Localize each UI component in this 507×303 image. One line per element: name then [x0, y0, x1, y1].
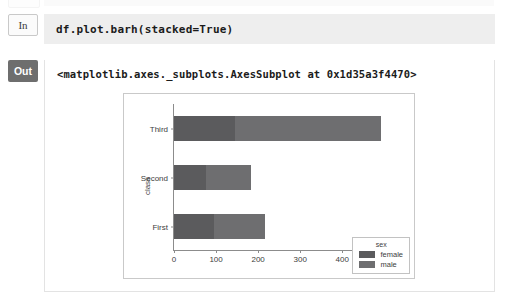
output-repr-text: <matplotlib.axes._subplots.AxesSubplot a…: [57, 68, 417, 80]
bar-segment-first-male: [214, 214, 265, 239]
x-tick-mark: [174, 250, 175, 253]
x-tick-label-0: 0: [172, 255, 176, 264]
legend-entry-male: male: [359, 260, 403, 269]
code-text: df.plot.barh(stacked=True): [44, 23, 233, 36]
bar-group-third: Third: [174, 116, 381, 141]
x-tick-mark: [258, 250, 259, 253]
x-tick-label-300: 300: [294, 255, 307, 264]
plot-axes: FirstSecondThird0100200300400500: [173, 104, 396, 251]
clipped-previous-cell: [0, 0, 507, 8]
legend-title: sex: [359, 241, 403, 248]
input-prompt-label: In: [8, 14, 38, 36]
y-tick-mark: [171, 177, 174, 178]
bar-group-first: First: [174, 214, 265, 239]
clipped-code-bar: [44, 0, 494, 6]
bar-segment-third-female: [174, 116, 235, 141]
x-tick-mark: [342, 250, 343, 253]
code-editor-area[interactable]: df.plot.barh(stacked=True): [44, 14, 495, 44]
bar-segment-second-female: [174, 165, 206, 190]
y-tick-label-second: Second: [141, 173, 168, 182]
x-tick-mark: [300, 250, 301, 253]
y-tick-mark: [171, 226, 174, 227]
legend-entries: femalemale: [359, 250, 403, 269]
y-tick-label-third: Third: [150, 124, 168, 133]
x-tick-label-200: 200: [251, 255, 264, 264]
x-tick-label-400: 400: [336, 255, 349, 264]
chart-legend: sex femalemale: [352, 237, 410, 274]
y-tick-label-first: First: [152, 222, 168, 231]
x-tick-label-100: 100: [209, 255, 222, 264]
output-area: <matplotlib.axes._subplots.AxesSubplot a…: [44, 60, 495, 292]
bar-segment-first-female: [174, 214, 214, 239]
legend-swatch-male: [359, 261, 375, 268]
x-tick-mark: [216, 250, 217, 253]
output-prompt-label: Out: [8, 60, 38, 82]
legend-swatch-female: [359, 251, 375, 258]
bar-group-second: Second: [174, 165, 251, 190]
legend-entry-female: female: [359, 250, 403, 259]
bar-segment-second-male: [206, 165, 251, 190]
clipped-prompt-box: [8, 0, 40, 8]
matplotlib-figure: class FirstSecondThird0100200300400500 s…: [123, 93, 415, 279]
legend-label-female: female: [380, 250, 403, 259]
bar-segment-third-male: [235, 116, 381, 141]
y-tick-mark: [171, 128, 174, 129]
legend-label-male: male: [380, 260, 396, 269]
